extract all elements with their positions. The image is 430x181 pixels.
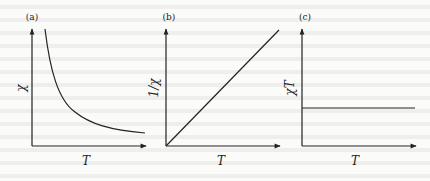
panel-b-line bbox=[166, 30, 279, 146]
panel-b: (b) 1/χ T bbox=[147, 12, 280, 168]
panel-c-y-label: χT bbox=[283, 79, 297, 96]
panel-b-label: (b) bbox=[163, 12, 176, 22]
panel-c-label: (c) bbox=[299, 12, 311, 22]
panel-a-curve bbox=[45, 29, 145, 133]
panel-a-label: (a) bbox=[26, 12, 38, 22]
panel-c-x-label: T bbox=[351, 154, 360, 168]
panel-a: (a) χ T bbox=[14, 12, 146, 168]
panel-a-y-label: χ bbox=[14, 84, 28, 93]
figure: (a) χ T (b) 1/χ T (c) χT T bbox=[0, 0, 430, 181]
panel-b-x-label: T bbox=[217, 154, 226, 168]
panel-b-y-label: 1/χ bbox=[147, 78, 161, 98]
panel-c: (c) χT T bbox=[283, 12, 416, 168]
figure-svg: (a) χ T (b) 1/χ T (c) χT T bbox=[0, 0, 430, 181]
panel-a-x-label: T bbox=[82, 154, 91, 168]
